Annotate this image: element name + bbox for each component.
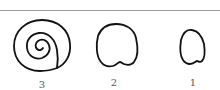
figure-label-1: 1: [183, 77, 203, 89]
figure-label-2: 2: [104, 77, 124, 89]
figure-1-outline: [180, 30, 204, 64]
figure-2-outline: [97, 24, 138, 66]
figure-3-spiral-shell: [14, 20, 70, 71]
figure-label-3: 3: [32, 79, 52, 90]
